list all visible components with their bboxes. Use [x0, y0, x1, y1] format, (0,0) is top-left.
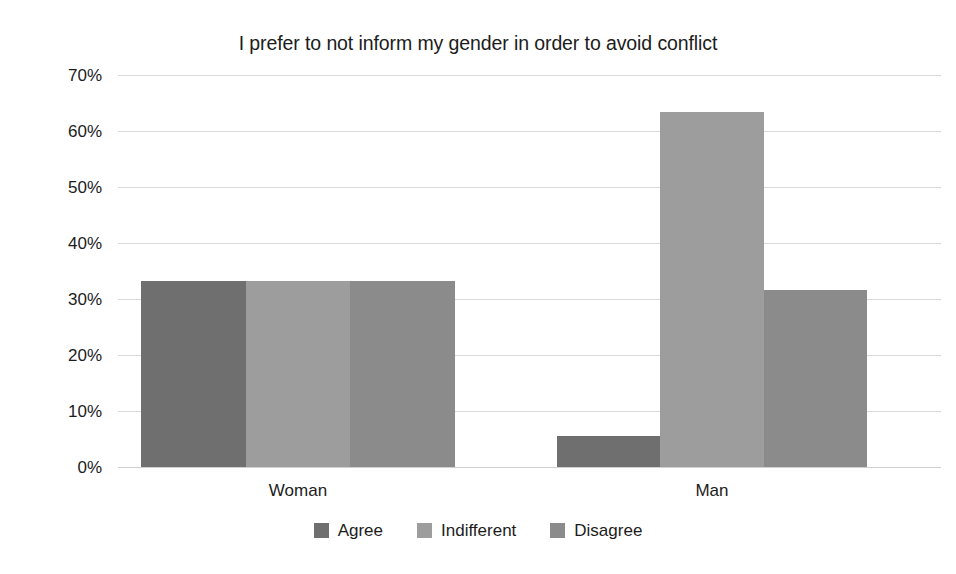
- legend-label: Indifferent: [441, 522, 516, 539]
- chart-legend: AgreeIndifferentDisagree: [0, 522, 956, 539]
- bar-man-indifferent[interactable]: [660, 112, 763, 467]
- legend-item-indifferent[interactable]: Indifferent: [417, 522, 516, 539]
- y-axis-label: 10%: [32, 403, 102, 420]
- bars-layer: [118, 75, 941, 467]
- y-axis-label: 60%: [32, 123, 102, 140]
- bar-woman-indifferent[interactable]: [246, 281, 351, 467]
- gridline-0%: [118, 467, 941, 468]
- y-axis-label: 20%: [32, 347, 102, 364]
- chart-title: I prefer to not inform my gender in orde…: [0, 32, 956, 55]
- legend-label: Agree: [338, 522, 383, 539]
- chart-container: I prefer to not inform my gender in orde…: [0, 0, 956, 574]
- y-axis-label: 70%: [32, 67, 102, 84]
- x-axis-label-man: Man: [612, 481, 812, 501]
- legend-label: Disagree: [574, 522, 642, 539]
- bar-woman-disagree[interactable]: [350, 281, 455, 467]
- y-axis-label: 50%: [32, 179, 102, 196]
- bar-man-agree[interactable]: [557, 436, 660, 467]
- legend-swatch-icon: [417, 523, 432, 538]
- bar-woman-agree[interactable]: [141, 281, 246, 467]
- y-axis-label: 30%: [32, 291, 102, 308]
- bar-man-disagree[interactable]: [764, 290, 867, 467]
- y-axis-label: 0%: [32, 459, 102, 476]
- legend-item-agree[interactable]: Agree: [314, 522, 383, 539]
- legend-item-disagree[interactable]: Disagree: [550, 522, 642, 539]
- y-axis-label: 40%: [32, 235, 102, 252]
- x-axis-label-woman: Woman: [198, 481, 398, 501]
- legend-swatch-icon: [314, 523, 329, 538]
- legend-swatch-icon: [550, 523, 565, 538]
- y-axis: 70%60%50%40%30%20%10%0%: [28, 75, 102, 467]
